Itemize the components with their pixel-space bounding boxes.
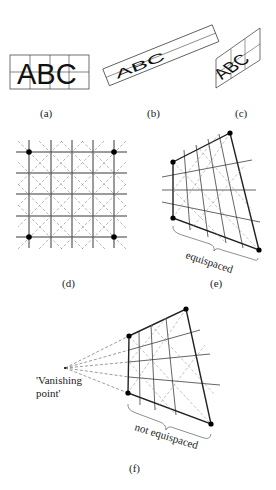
caption-a: (a) xyxy=(40,107,53,120)
figure-canvas: ABC (a) ABC (b) ABC (c) xyxy=(0,0,276,490)
panel-c: ABC (c) xyxy=(209,28,260,120)
caption-f: (f) xyxy=(129,462,140,475)
annotation-equispaced: equispaced xyxy=(184,248,235,275)
control-point xyxy=(111,149,117,155)
abc-text-c: ABC xyxy=(209,51,255,83)
abc-text-a: ABC xyxy=(17,58,77,90)
vanishing-point xyxy=(64,367,66,369)
caption-c: (c) xyxy=(235,107,248,120)
panel-f: not equispaced 'Vanishing point' (f) xyxy=(36,306,220,475)
caption-b: (b) xyxy=(147,107,160,120)
annotation-not-equispaced: not equispaced xyxy=(133,420,200,451)
caption-d: (d) xyxy=(62,277,75,290)
panel-d: (d) xyxy=(16,140,127,290)
control-point xyxy=(26,149,32,155)
vanishing-label-line2: point' xyxy=(36,387,61,399)
control-point xyxy=(111,234,117,240)
panel-a: ABC (a) xyxy=(10,55,89,120)
panel-e: equispaced (e) xyxy=(162,130,262,290)
caption-e: (e) xyxy=(210,277,223,290)
control-point xyxy=(26,234,32,240)
vanishing-label-line1: 'Vanishing xyxy=(36,374,82,386)
panel-b: ABC xyxy=(103,25,219,86)
